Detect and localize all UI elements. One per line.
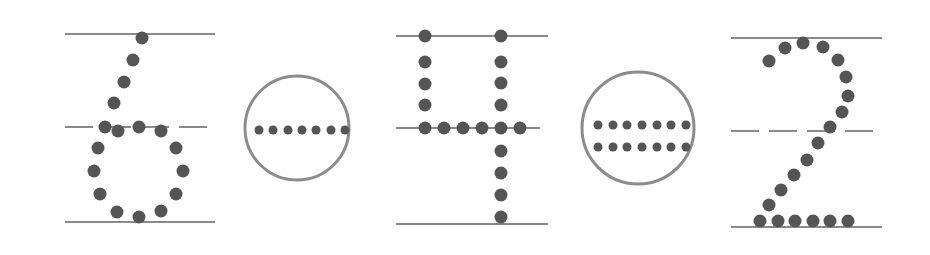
trace-dot	[476, 122, 489, 135]
trace-dot	[842, 90, 855, 103]
digit-4	[396, 30, 548, 225]
trace-dot	[754, 215, 767, 228]
trace-dot	[495, 56, 508, 69]
trace-dot	[298, 126, 307, 135]
trace-dot	[312, 126, 321, 135]
trace-dot	[457, 122, 470, 135]
trace-dot	[772, 215, 785, 228]
trace-dot	[824, 121, 837, 134]
trace-dot	[638, 143, 647, 152]
trace-dot	[133, 121, 146, 134]
trace-dot	[775, 184, 788, 197]
trace-dot	[763, 55, 776, 68]
trace-dot	[682, 143, 691, 152]
trace-dot	[807, 215, 820, 228]
trace-dot	[840, 71, 853, 84]
trace-dot	[112, 125, 125, 138]
trace-dot	[763, 199, 776, 212]
trace-dot	[419, 99, 432, 112]
digit-2	[731, 37, 882, 228]
trace-dot	[495, 77, 508, 90]
trace-dot	[170, 142, 183, 155]
trace-dot	[170, 188, 183, 201]
trace-dot	[623, 143, 632, 152]
trace-dot	[495, 189, 508, 202]
trace-dot	[419, 30, 432, 43]
trace-dot	[594, 121, 603, 130]
trace-dot	[155, 205, 168, 218]
trace-dot	[667, 121, 676, 130]
trace-dot	[341, 126, 350, 135]
trace-dot	[779, 42, 792, 55]
trace-dot	[801, 154, 814, 167]
trace-dot	[136, 32, 149, 45]
trace-dot	[812, 137, 825, 150]
trace-dot	[638, 121, 647, 130]
trace-dot	[269, 126, 278, 135]
operator-minus	[245, 76, 350, 180]
operator-equals	[582, 72, 694, 184]
trace-dot	[118, 76, 131, 89]
trace-dot	[609, 121, 618, 130]
trace-dot	[842, 215, 855, 228]
trace-dot	[99, 121, 112, 134]
trace-dot	[419, 56, 432, 69]
trace-dot	[797, 37, 810, 50]
trace-dot	[495, 167, 508, 180]
trace-dot	[327, 126, 336, 135]
trace-dot	[824, 215, 837, 228]
trace-dot	[94, 188, 107, 201]
trace-dot	[177, 165, 190, 178]
trace-dot	[789, 215, 802, 228]
trace-dot	[419, 78, 432, 91]
trace-dot	[788, 169, 801, 182]
trace-dot	[495, 99, 508, 112]
tracing-worksheet	[0, 0, 930, 255]
diagram-canvas	[0, 0, 930, 255]
trace-dot	[832, 54, 845, 67]
trace-dot	[594, 143, 603, 152]
digit-6	[65, 32, 215, 224]
trace-dot	[495, 122, 508, 135]
trace-dot	[88, 165, 101, 178]
trace-dot	[419, 122, 432, 135]
trace-dot	[495, 30, 508, 43]
trace-dot	[108, 97, 121, 110]
trace-dot	[92, 142, 105, 155]
trace-dot	[127, 54, 140, 67]
trace-dot	[817, 41, 830, 54]
trace-dot	[514, 122, 527, 135]
trace-dot	[623, 121, 632, 130]
trace-dot	[255, 126, 264, 135]
trace-dot	[495, 145, 508, 158]
trace-dot	[836, 106, 849, 119]
trace-dot	[653, 143, 662, 152]
trace-dot	[653, 121, 662, 130]
trace-dot	[495, 211, 508, 224]
trace-dot	[438, 122, 451, 135]
trace-dot	[667, 143, 676, 152]
trace-dot	[682, 121, 691, 130]
trace-dot	[111, 206, 124, 219]
trace-dot	[609, 143, 618, 152]
trace-dot	[133, 211, 146, 224]
trace-dot	[284, 126, 293, 135]
trace-dot	[155, 125, 168, 138]
